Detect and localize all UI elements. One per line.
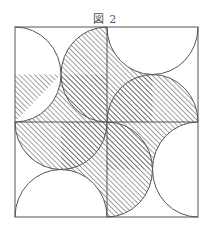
- pinwheel-diagram: [0, 0, 210, 233]
- outlines: [15, 27, 198, 217]
